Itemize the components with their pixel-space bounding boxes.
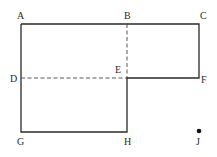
point-j-dot: [197, 129, 202, 134]
label-g: G: [17, 136, 24, 147]
label-c: C: [200, 10, 207, 21]
geometry-diagram: A B C D E F G H J: [0, 0, 217, 157]
label-j: J: [196, 136, 200, 147]
label-h: H: [124, 136, 131, 147]
label-d: D: [10, 73, 17, 84]
label-a: A: [17, 10, 25, 21]
label-f: F: [201, 74, 207, 85]
label-e: E: [115, 64, 121, 75]
label-b: B: [124, 10, 131, 21]
